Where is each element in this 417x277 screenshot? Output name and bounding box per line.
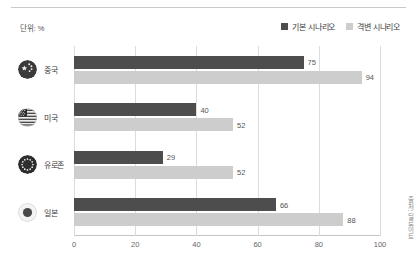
chart-figure: 단위: % 기본 시나리오 격변 시나리오 7594405229526688 중… <box>0 0 417 277</box>
bar <box>74 198 276 211</box>
bar <box>74 71 362 84</box>
category-label: 미국 <box>44 112 57 123</box>
bar <box>74 118 233 131</box>
x-axis-line <box>74 235 380 236</box>
bar-row: 94 <box>74 71 380 84</box>
source-note: 출처: 딜로이트 <box>405 196 415 240</box>
bar-row: 52 <box>74 118 380 131</box>
x-tick-label: 40 <box>192 240 200 249</box>
legend-item-disruption: 격변 시나리오 <box>346 21 400 32</box>
bar-value-label: 52 <box>233 120 245 129</box>
legend-item-base: 기본 시나리오 <box>281 21 335 32</box>
category-item: 중국 <box>18 55 57 85</box>
x-tick-label: 60 <box>253 240 261 249</box>
unit-label: 단위: % <box>20 22 44 33</box>
category-item: 유로존 <box>18 150 64 180</box>
top-divider <box>11 7 406 8</box>
bar-row: 52 <box>74 166 380 179</box>
x-tick-label: 100 <box>374 240 387 249</box>
legend-label-base: 기본 시나리오 <box>292 21 335 32</box>
bar-row: 75 <box>74 56 380 69</box>
plot-area: 7594405229526688 <box>74 46 380 236</box>
bar-row: 29 <box>74 151 380 164</box>
bar-value-label: 94 <box>362 73 374 82</box>
flag-china-icon <box>18 60 37 79</box>
flag-usa-icon <box>18 108 37 127</box>
category-label: 일본 <box>44 207 57 218</box>
x-tick-label: 20 <box>131 240 139 249</box>
category-label: 중국 <box>44 64 57 75</box>
bar <box>74 213 343 226</box>
x-tick-label: 80 <box>315 240 323 249</box>
bar-value-label: 29 <box>163 153 175 162</box>
bar <box>74 103 196 116</box>
bar-row: 66 <box>74 198 380 211</box>
flag-japan-icon <box>18 203 37 222</box>
bar-row: 88 <box>74 213 380 226</box>
category-item: 미국 <box>18 102 57 132</box>
legend-swatch-square-icon <box>281 23 288 30</box>
bar-value-label: 52 <box>233 168 245 177</box>
bar-value-label: 88 <box>343 215 355 224</box>
chart-legend: 기본 시나리오 격변 시나리오 <box>281 21 400 32</box>
legend-label-disruption: 격변 시나리오 <box>357 21 400 32</box>
flag-eurozone-icon <box>18 155 37 174</box>
bar <box>74 56 304 69</box>
bar-value-label: 66 <box>276 200 288 209</box>
gridline <box>380 46 381 236</box>
category-label: 유로존 <box>44 159 64 170</box>
bar <box>74 151 163 164</box>
bar-value-label: 40 <box>196 105 208 114</box>
bar-row: 40 <box>74 103 380 116</box>
bar <box>74 166 233 179</box>
category-item: 일본 <box>18 197 57 227</box>
bar-value-label: 75 <box>304 58 316 67</box>
legend-swatch-square-icon <box>346 23 353 30</box>
x-tick-label: 0 <box>72 240 76 249</box>
